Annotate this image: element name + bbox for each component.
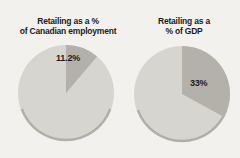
pie-gdp-title-line1: Retailing as a [128, 16, 240, 26]
pie-employment-title: Retailing as a % of Canadian employment [8, 16, 128, 36]
pie-gdp-value-label: 33% [190, 78, 207, 88]
pie-employment-title-line1: Retailing as a % [8, 16, 128, 26]
pie-chart-gdp [132, 44, 232, 144]
pie-employment-value-label: 11.2% [56, 53, 80, 63]
figure-canvas: Retailing as a % of Canadian employment … [0, 0, 240, 158]
pie-gdp-title-line2: % of GDP [128, 26, 240, 36]
pie-gdp-title: Retailing as a % of GDP [128, 16, 240, 36]
pie-employment-title-line2: of Canadian employment [8, 26, 128, 36]
